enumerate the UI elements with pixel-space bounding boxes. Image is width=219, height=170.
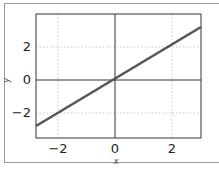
x-tick-2: 2 <box>168 141 176 156</box>
y-tick-0: 0 <box>23 72 31 87</box>
y-axis-label: y <box>2 77 11 83</box>
x-tick-labels: −2 0 2 <box>48 141 176 156</box>
line-chart: 2 0 −2 −2 0 2 x y <box>0 0 219 170</box>
series-line <box>36 27 201 126</box>
y-tick-neg2: −2 <box>12 105 31 120</box>
x-tick-neg2: −2 <box>48 141 67 156</box>
y-tick-labels: 2 0 −2 <box>12 39 31 120</box>
y-tick-2: 2 <box>23 39 31 54</box>
x-tick-0: 0 <box>111 141 119 156</box>
x-axis-label: x <box>113 157 119 166</box>
